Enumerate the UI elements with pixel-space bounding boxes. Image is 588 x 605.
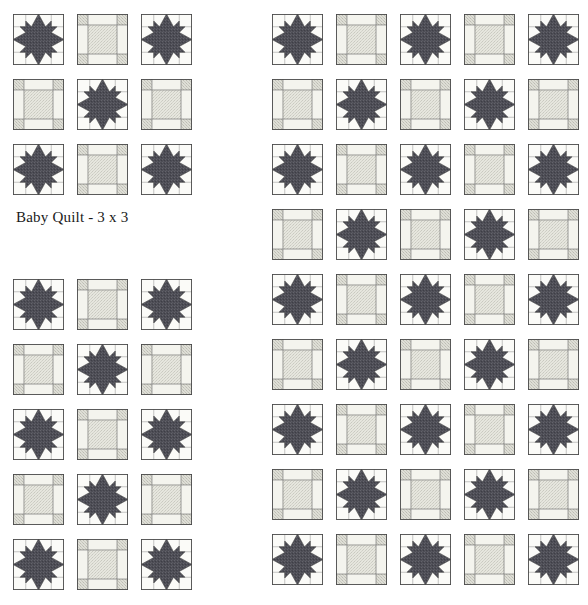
star-block bbox=[336, 469, 387, 520]
star-block bbox=[464, 209, 515, 260]
star-block bbox=[400, 144, 451, 195]
sashing-block bbox=[464, 144, 515, 195]
left-long-grid bbox=[13, 279, 192, 590]
star-block bbox=[141, 144, 192, 195]
sashing-block bbox=[141, 474, 192, 525]
sashing-block bbox=[464, 404, 515, 455]
star-block bbox=[400, 14, 451, 65]
star-block bbox=[13, 279, 64, 330]
star-block bbox=[400, 534, 451, 585]
quilt-pattern-page: Baby Quilt - 3 x 3 bbox=[0, 0, 588, 605]
star-block bbox=[141, 409, 192, 460]
sashing-block bbox=[272, 339, 323, 390]
sashing-block bbox=[272, 79, 323, 130]
star-block bbox=[528, 14, 579, 65]
star-block bbox=[13, 539, 64, 590]
sashing-block bbox=[336, 14, 387, 65]
sashing-block bbox=[272, 469, 323, 520]
star-block bbox=[464, 339, 515, 390]
sashing-block bbox=[77, 409, 128, 460]
star-block bbox=[272, 14, 323, 65]
sashing-block bbox=[528, 469, 579, 520]
sashing-block bbox=[336, 144, 387, 195]
star-block bbox=[272, 144, 323, 195]
star-block bbox=[141, 539, 192, 590]
sashing-block bbox=[336, 274, 387, 325]
star-block bbox=[13, 409, 64, 460]
sashing-block bbox=[336, 404, 387, 455]
star-block bbox=[141, 279, 192, 330]
star-block bbox=[400, 274, 451, 325]
sashing-block bbox=[13, 344, 64, 395]
star-block bbox=[528, 404, 579, 455]
star-block bbox=[141, 14, 192, 65]
star-block bbox=[400, 404, 451, 455]
sashing-block bbox=[400, 469, 451, 520]
sashing-block bbox=[528, 79, 579, 130]
star-block bbox=[13, 144, 64, 195]
sashing-block bbox=[77, 539, 128, 590]
star-block bbox=[528, 144, 579, 195]
sashing-block bbox=[141, 79, 192, 130]
sashing-block bbox=[336, 534, 387, 585]
sashing-block bbox=[464, 14, 515, 65]
star-block bbox=[77, 344, 128, 395]
sashing-block bbox=[13, 79, 64, 130]
star-block bbox=[272, 534, 323, 585]
sashing-block bbox=[400, 79, 451, 130]
star-block bbox=[528, 534, 579, 585]
star-block bbox=[13, 14, 64, 65]
sashing-block bbox=[13, 474, 64, 525]
baby-quilt-caption: Baby Quilt - 3 x 3 bbox=[16, 209, 128, 226]
sashing-block bbox=[77, 279, 128, 330]
star-block bbox=[336, 79, 387, 130]
star-block bbox=[77, 474, 128, 525]
sashing-block bbox=[528, 209, 579, 260]
star-block bbox=[464, 79, 515, 130]
sashing-block bbox=[464, 534, 515, 585]
sashing-block bbox=[77, 144, 128, 195]
star-block bbox=[77, 79, 128, 130]
sashing-block bbox=[141, 344, 192, 395]
star-block bbox=[336, 209, 387, 260]
sashing-block bbox=[400, 209, 451, 260]
right-big-grid bbox=[272, 14, 579, 585]
baby-quilt-grid bbox=[13, 14, 192, 195]
star-block bbox=[272, 404, 323, 455]
sashing-block bbox=[77, 14, 128, 65]
sashing-block bbox=[528, 339, 579, 390]
star-block bbox=[464, 469, 515, 520]
star-block bbox=[336, 339, 387, 390]
star-block bbox=[272, 274, 323, 325]
sashing-block bbox=[400, 339, 451, 390]
sashing-block bbox=[464, 274, 515, 325]
sashing-block bbox=[272, 209, 323, 260]
star-block bbox=[528, 274, 579, 325]
